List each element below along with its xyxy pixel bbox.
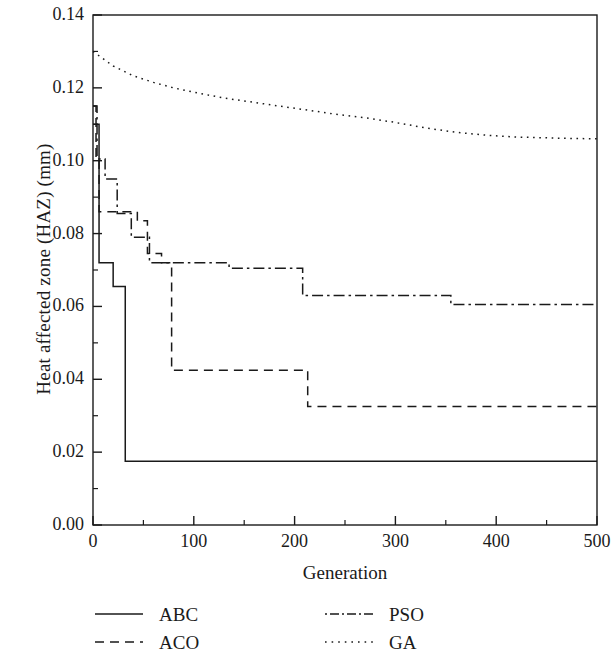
series-line-pso — [93, 106, 597, 305]
y-tick-label: 0.08 — [22, 223, 84, 244]
x-axis-label: Generation — [93, 562, 597, 584]
x-tick-label: 400 — [461, 531, 531, 552]
series-line-abc — [93, 124, 597, 461]
y-tick-label: 0.04 — [22, 368, 84, 389]
x-tick-label: 200 — [260, 531, 330, 552]
y-tick-label: 0.14 — [22, 4, 84, 25]
legend-item-abc: ABC — [93, 605, 323, 624]
legend-label-abc: ABC — [159, 605, 198, 624]
x-tick-label: 500 — [562, 531, 614, 552]
y-tick-label: 0.00 — [22, 514, 84, 535]
legend-item-ga: GA — [323, 633, 553, 652]
y-axis-label: Heat affected zone (HAZ) (mm) — [33, 39, 55, 499]
legend-label-ga: GA — [389, 633, 416, 652]
legend-row: ACO GA — [93, 628, 553, 656]
dash-dot-line-key — [323, 607, 375, 621]
solid-line-key — [93, 607, 145, 621]
y-tick-label: 0.10 — [22, 150, 84, 171]
x-tick-label: 300 — [360, 531, 430, 552]
y-tick-label: 0.02 — [22, 441, 84, 462]
series-line-aco — [93, 106, 597, 407]
chart-canvas — [0, 0, 614, 659]
legend-item-pso: PSO — [323, 605, 553, 624]
x-tick-label: 100 — [159, 531, 229, 552]
y-tick-label: 0.06 — [22, 295, 84, 316]
y-tick-label: 0.12 — [22, 77, 84, 98]
legend-item-aco: ACO — [93, 633, 323, 652]
legend-label-aco: ACO — [159, 633, 199, 652]
series-line-ga — [93, 51, 597, 138]
legend-label-pso: PSO — [389, 605, 424, 624]
legend-row: ABC PSO — [93, 600, 553, 628]
chart-legend: ABC PSO ACO GA — [93, 600, 553, 656]
chart-figure: Heat affected zone (HAZ) (mm) Generation… — [0, 0, 614, 659]
dashed-line-key — [93, 635, 145, 649]
dotted-line-key — [323, 635, 375, 649]
